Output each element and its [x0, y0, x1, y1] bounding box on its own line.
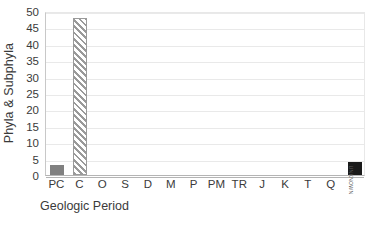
x-axis-tick-label: O — [98, 178, 107, 190]
y-axis-tick-label: 25 — [26, 88, 39, 100]
x-axis-tick-label: P — [190, 178, 198, 190]
y-axis-title: Phyla & Subphyla — [0, 0, 18, 186]
x-axis-tick-label: UNKNOWN — [348, 166, 354, 195]
bar-slot — [46, 13, 69, 175]
bar-slot — [115, 13, 138, 175]
bars-layer — [46, 13, 364, 175]
y-axis-tick-label: 0 — [33, 170, 39, 182]
x-axis-tick-label: D — [144, 178, 152, 190]
bar-slot — [229, 13, 252, 175]
plot-area — [45, 12, 365, 176]
x-axis-tick-label: TR — [232, 178, 247, 190]
y-axis-tick-labels: 05101520253035404550 — [18, 12, 42, 176]
x-axis-tick-label: S — [121, 178, 129, 190]
x-axis-title: Geologic Period — [40, 199, 129, 213]
bar-slot — [92, 13, 115, 175]
y-axis-tick-label: 45 — [26, 22, 39, 34]
bar-slot — [69, 13, 92, 175]
bar-pc — [50, 165, 64, 175]
x-axis-tick-label: PM — [208, 178, 225, 190]
y-axis-tick-label: 5 — [33, 154, 39, 166]
bar-slot — [275, 13, 298, 175]
y-axis-tick-label: 10 — [26, 137, 39, 149]
x-axis-tick-label: K — [281, 178, 289, 190]
bar-slot — [206, 13, 229, 175]
y-axis-tick-label: 20 — [26, 104, 39, 116]
bar-chart: Phyla & Subphyla 05101520253035404550 PC… — [0, 0, 370, 230]
x-axis-tick-label: C — [75, 178, 83, 190]
bar-slot — [343, 13, 366, 175]
y-axis-title-text: Phyla & Subphyla — [2, 43, 16, 143]
y-axis-tick-label: 50 — [26, 6, 39, 18]
bar-slot — [137, 13, 160, 175]
x-axis-tick-label: Q — [326, 178, 335, 190]
x-axis-tick-label: PC — [48, 178, 64, 190]
y-axis-tick-label: 35 — [26, 55, 39, 67]
x-axis-tick-label: M — [166, 178, 176, 190]
bar-slot — [160, 13, 183, 175]
x-axis-tick-label: J — [259, 178, 265, 190]
x-axis-tick-label: T — [304, 178, 311, 190]
bar-slot — [320, 13, 343, 175]
bar-c — [73, 18, 87, 175]
bar-slot — [297, 13, 320, 175]
y-axis-tick-label: 40 — [26, 39, 39, 51]
y-axis-tick-label: 15 — [26, 121, 39, 133]
bar-slot — [183, 13, 206, 175]
bar-slot — [252, 13, 275, 175]
y-axis-tick-label: 30 — [26, 72, 39, 84]
